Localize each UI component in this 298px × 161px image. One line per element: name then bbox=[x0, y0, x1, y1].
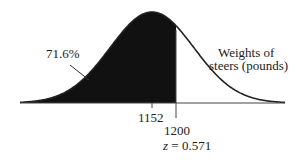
shaded-percent-label: 71.6% bbox=[46, 47, 80, 60]
cutoff-label: 1200 bbox=[164, 124, 190, 137]
variable-label-line2: steers (pounds) bbox=[209, 59, 288, 72]
percent-leader-line bbox=[70, 65, 89, 80]
z-value: = 0.571 bbox=[168, 138, 211, 153]
normal-curve-figure bbox=[0, 0, 298, 161]
shaded-area bbox=[20, 12, 176, 103]
z-score-label: z = 0.571 bbox=[163, 139, 211, 152]
mean-label: 1152 bbox=[138, 111, 164, 124]
